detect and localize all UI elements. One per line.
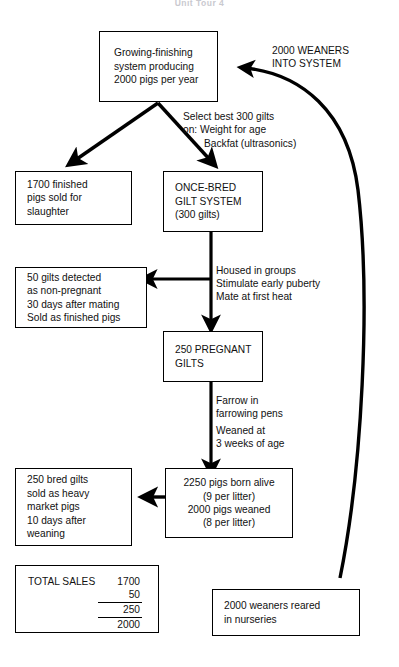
box-once-bred-gilt-system-text: ONCE-BRED GILT SYSTEM (300 gilts) [164, 181, 262, 221]
box-pigs-born-alive: 2250 pigs born alive (9 per litter) 2000… [165, 468, 293, 538]
box-finished-slaughter-text: 1700 finished pigs sold for slaughter [16, 178, 131, 218]
note-weaned: Weaned at 3 weeks of age [216, 424, 285, 451]
box-growing-finishing: Growing-finishing system producing 2000 … [99, 31, 218, 102]
box-pregnant-gilts-text: 250 PREGNANT GILTS [164, 343, 262, 370]
box-weaners-nurseries-text: 2000 weaners reared in nurseries [213, 599, 359, 626]
note-farrow: Farrow in farrowing pens [216, 394, 283, 421]
box-total-sales: TOTAL SALES 1700 50 250 2000 [15, 565, 159, 633]
box-finished-slaughter: 1700 finished pigs sold for slaughter [15, 171, 132, 225]
flowchart-page: Unit Tour 4 [0, 0, 399, 667]
total-sales-value-1: 50 [98, 588, 142, 601]
box-non-pregnant-gilts: 50 gilts detected as non-pregnant 30 day… [15, 267, 147, 328]
box-growing-finishing-text: Growing-finishing system producing 2000 … [100, 46, 217, 86]
arrow-growing-to-slaughter [74, 103, 158, 161]
box-weaners-nurseries: 2000 weaners reared in nurseries [212, 589, 360, 636]
box-once-bred-gilt-system: ONCE-BRED GILT SYSTEM (300 gilts) [163, 171, 263, 232]
note-select-gilts: Select best 300 gilts on: Weight for age [183, 110, 274, 137]
total-sales-value-3: 2000 [98, 617, 142, 631]
total-sales-values: 1700 50 250 2000 [98, 575, 142, 632]
note-weaners-into-system: 2000 WEANERS INTO SYSTEM [272, 44, 349, 71]
box-pregnant-gilts: 250 PREGNANT GILTS [163, 331, 263, 382]
box-pigs-born-alive-text: 2250 pigs born alive (9 per litter) 2000… [166, 476, 292, 530]
total-sales-value-0: 1700 [98, 575, 142, 588]
note-housed-in-groups: Housed in groups Stimulate early puberty… [216, 264, 320, 304]
box-non-pregnant-gilts-text: 50 gilts detected as non-pregnant 30 day… [16, 271, 146, 325]
total-sales-value-2: 250 [98, 602, 142, 616]
note-select-gilts-backfat: Backfat (ultrasonics) [204, 137, 296, 150]
total-sales-label: TOTAL SALES [28, 575, 95, 588]
box-bred-gilts-sold: 250 bred gilts sold as heavy market pigs… [15, 468, 132, 546]
box-bred-gilts-sold-text: 250 bred gilts sold as heavy market pigs… [16, 473, 131, 540]
